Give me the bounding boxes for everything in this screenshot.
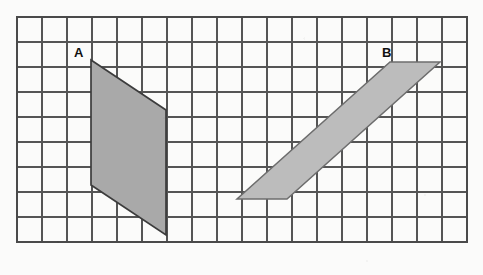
grid-figure: A B [0, 0, 483, 275]
shape-a-label: A [74, 45, 84, 60]
figure-canvas: A B [0, 0, 483, 275]
shape-b-label: B [382, 45, 391, 60]
